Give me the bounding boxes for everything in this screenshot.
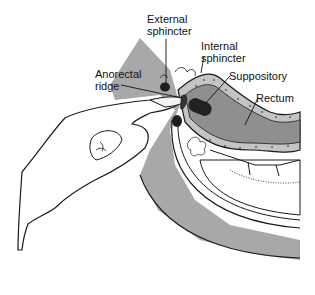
label-suppository: Suppository (229, 70, 287, 82)
label-internal-sphincter: Internal sphincter (201, 40, 246, 64)
label-rectum: Rectum (256, 92, 294, 104)
label-anorectal-ridge: Anorectal ridge (95, 68, 141, 92)
fat-lobules-lower (188, 137, 206, 156)
suppository-insertion-diagram: External sphincter Internal sphincter An… (0, 0, 315, 295)
anatomy-illustration (0, 0, 315, 295)
external-sphincter-upper (160, 83, 170, 92)
sacral-region (200, 160, 300, 215)
external-sphincter-lower (172, 115, 182, 127)
label-external-sphincter: External sphincter (147, 13, 192, 37)
